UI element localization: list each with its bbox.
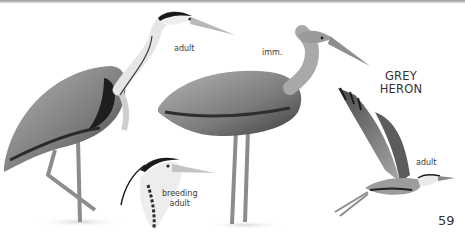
flying-adult-heron-figure (335, 88, 455, 216)
species-title-line2: HERON (378, 83, 424, 96)
species-title: GREY HERON (378, 70, 424, 96)
immature-label: imm. (262, 48, 282, 58)
field-guide-page: adult imm. breeding adult adult GREY HER… (0, 0, 465, 244)
heron-illustrations (0, 0, 465, 244)
breeding-adult-label-line1: breeding (162, 189, 197, 199)
flying-adult-label: adult (416, 158, 436, 168)
breeding-adult-label-line2: adult (162, 199, 197, 209)
page-number: 59 (438, 214, 455, 228)
standing-adult-label: adult (174, 44, 194, 54)
breeding-adult-label: breeding adult (162, 189, 197, 209)
